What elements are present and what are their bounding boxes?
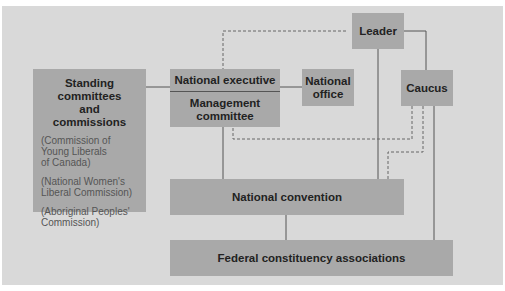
committee-item: (Commission of Young Liberals of Canada) (41, 135, 138, 168)
node-label: Management committee (188, 97, 262, 123)
node-label: National office (305, 75, 350, 101)
committee-item: (National Women's Liberal Commission) (41, 176, 138, 198)
node-label: National convention (232, 191, 342, 204)
node-federal-constituency-associations: Federal constituency associations (170, 240, 453, 276)
node-caucus: Caucus (401, 70, 453, 106)
node-management-committee: Management committee (170, 92, 280, 127)
node-national-office: National office (302, 69, 354, 106)
node-label: Federal constituency associations (218, 252, 406, 265)
node-standing-committees: Standing committees and commissions (Com… (33, 69, 146, 212)
node-label: Caucus (406, 82, 448, 95)
node-national-convention: National convention (170, 179, 404, 215)
node-leader: Leader (352, 13, 404, 49)
node-label: National executive (175, 74, 276, 87)
node-label: Standing committees and commissions (41, 77, 138, 129)
node-label: Leader (359, 25, 397, 38)
node-national-executive: National executive (170, 69, 280, 92)
committee-item: (Aboriginal Peoples' Commission) (41, 206, 138, 228)
